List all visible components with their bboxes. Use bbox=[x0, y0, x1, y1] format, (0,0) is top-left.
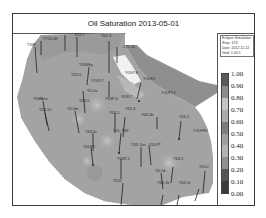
well-label: YOLFU bbox=[143, 77, 155, 81]
tick-label: 0.20 bbox=[231, 166, 243, 174]
well-label: YDLU bbox=[199, 165, 209, 169]
well-label: YDMAnn bbox=[33, 97, 47, 101]
well-label: YD5-5C bbox=[39, 108, 52, 112]
tick-label: 0.70 bbox=[231, 106, 243, 114]
well-label: YD5P-2 bbox=[117, 157, 130, 161]
well-label: YD5-5 bbox=[179, 115, 189, 119]
figure-frame: Oil Saturation 2013-05-01 bbox=[12, 13, 255, 206]
well-label: YD5-Ye bbox=[157, 181, 169, 185]
well-label: YD3P-3 bbox=[105, 97, 118, 101]
well-label: YOLP-8 bbox=[125, 71, 138, 75]
well-label: YD11 bbox=[113, 179, 122, 183]
well-label: YD3-0 bbox=[79, 99, 89, 103]
well-label: YDLP3 bbox=[83, 145, 94, 149]
info-box: Eclipse Simulation Step: 123 Date: 2012.… bbox=[220, 35, 254, 57]
well-label: YD09Sq bbox=[79, 63, 92, 67]
tick-label: 0.50 bbox=[231, 130, 243, 138]
chart-title: Oil Saturation 2013-05-01 bbox=[13, 14, 254, 34]
well-label: YDLPT bbox=[149, 143, 161, 147]
tick-label: 0.40 bbox=[231, 142, 243, 150]
tick-label: 0.30 bbox=[231, 154, 243, 162]
well-label: YOLP-7 bbox=[91, 79, 104, 83]
well-label: YD2-3 bbox=[101, 34, 111, 38]
well-label: YD2-5 bbox=[109, 111, 119, 115]
colorbar bbox=[221, 73, 229, 194]
well-label: YD5-Yun bbox=[131, 143, 145, 147]
legend-panel: Eclipse Simulation Step: 123 Date: 2012.… bbox=[218, 33, 254, 205]
tick-label: 0.80 bbox=[231, 94, 243, 102]
well-label: YD3-5b bbox=[141, 113, 153, 117]
well-label: YD4-2 bbox=[173, 157, 183, 161]
tick-label: 0.00 bbox=[231, 190, 243, 198]
well-label: YOL-TGF bbox=[113, 129, 129, 133]
well-label: T10P bbox=[27, 43, 36, 47]
tick-label: 1.00 bbox=[231, 70, 243, 78]
well-label: YD5-5r bbox=[179, 181, 190, 185]
saturation-map[interactable]: YY16-5H T10P YD2-3 K11-7 C7C-11 YD09Sq Y… bbox=[13, 33, 218, 205]
well-label: YD3-5c bbox=[85, 130, 97, 134]
well-label: YY16-5H bbox=[43, 37, 58, 41]
well-label: YD2-4 bbox=[125, 107, 135, 111]
colorbar-ticks: 1.00 0.90 0.80 0.70 0.60 0.50 0.40 0.30 … bbox=[231, 70, 255, 197]
tick-label: 0.60 bbox=[231, 118, 243, 126]
well-label: YD-6m bbox=[67, 107, 78, 111]
well-label: YOLFT-1 bbox=[161, 91, 176, 95]
well-label: YD-5d bbox=[155, 169, 165, 173]
well-label: YOLFRO bbox=[193, 129, 208, 133]
tick-label: 0.10 bbox=[231, 178, 243, 186]
well-label: YD3L7 bbox=[121, 95, 132, 99]
well-label: YD3-5 bbox=[71, 73, 81, 77]
tick-label: 0.90 bbox=[231, 82, 243, 90]
well-label: K11-7 bbox=[75, 33, 84, 37]
info-line: Grid: 1.00:1 bbox=[222, 51, 253, 56]
well-label: C7C-11 bbox=[123, 45, 135, 49]
well-label: YD-5a bbox=[87, 89, 97, 93]
